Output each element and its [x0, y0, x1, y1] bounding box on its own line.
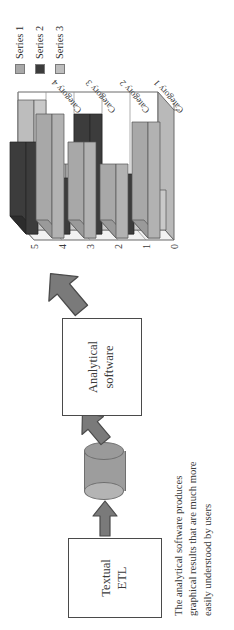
- ytick-3: 3: [85, 244, 96, 249]
- database-cylinder: [84, 442, 124, 500]
- bar-cat4-series1: [36, 114, 64, 238]
- legend-item-series-3: Series 3: [54, 6, 65, 74]
- node-analytical-software-line2: software: [102, 341, 118, 393]
- node-textual-etl-line1: Textual: [99, 559, 115, 596]
- node-textual-etl: Textual ETL: [68, 538, 162, 618]
- ytick-2: 2: [113, 244, 124, 249]
- ytick-5: 5: [29, 244, 40, 249]
- node-analytical-software-line1: Analytical: [86, 341, 102, 393]
- ytick-0: 0: [169, 244, 180, 249]
- legend-label-series-1: Series 1: [14, 26, 25, 59]
- bar-cat3-series1: [68, 142, 96, 238]
- bar-chart: 0 1 2 3 4 5: [8, 80, 218, 260]
- legend-swatch-series-1: [15, 64, 25, 74]
- diagram-canvas: Textual ETL Analytical software: [0, 0, 234, 630]
- rotated-page-wrapper: Textual ETL Analytical software: [0, 0, 234, 630]
- ytick-1: 1: [141, 244, 152, 249]
- legend-label-series-2: Series 2: [34, 26, 45, 59]
- node-analytical-software: Analytical software: [62, 318, 142, 416]
- legend-swatch-series-2: [35, 64, 45, 74]
- legend-item-series-2: Series 2: [34, 6, 45, 74]
- node-textual-etl-line2: ETL: [115, 559, 131, 596]
- diagram-caption: The analytical software produces graphic…: [172, 444, 215, 616]
- bar-cat4-series2: [10, 142, 38, 234]
- chart-svg: 0 1 2 3 4 5: [8, 80, 218, 260]
- bar-cat1-series1: [132, 122, 160, 238]
- arrow-analytical-software-to-chart: [40, 266, 92, 318]
- legend-label-series-3: Series 3: [54, 26, 65, 59]
- legend-item-series-1: Series 1: [14, 6, 25, 74]
- cylinder-cap-left: [84, 482, 124, 500]
- ytick-4: 4: [57, 244, 68, 249]
- arrow-etl-to-database: [92, 500, 118, 536]
- legend-swatch-series-3: [55, 64, 65, 74]
- chart-legend: Series 1 Series 2 Series 3: [14, 6, 74, 74]
